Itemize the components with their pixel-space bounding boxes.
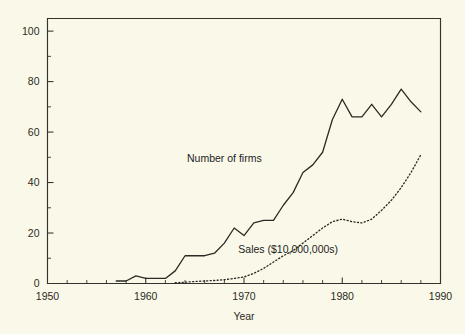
chart-container: 19501960197019801990 020406080100 Number… (0, 0, 465, 334)
x-tick-label: 1950 (36, 290, 60, 302)
y-tick-label: 40 (28, 176, 40, 188)
x-axis-title: Year (233, 310, 255, 322)
series-annotation-label: Number of firms (187, 152, 262, 164)
y-tick-label: 80 (28, 75, 40, 87)
y-tick-label: 0 (34, 277, 40, 289)
x-tick-label: 1970 (232, 290, 256, 302)
line-chart: 19501960197019801990 020406080100 Number… (0, 0, 465, 334)
y-tick-label: 20 (28, 227, 40, 239)
x-tick-label: 1990 (429, 290, 453, 302)
y-tick-label: 100 (22, 25, 40, 37)
x-tick-label: 1980 (331, 290, 355, 302)
y-tick-label: 60 (28, 126, 40, 138)
x-tick-label: 1960 (134, 290, 158, 302)
series-annotation-label: Sales ($10,000,000s) (238, 243, 338, 255)
